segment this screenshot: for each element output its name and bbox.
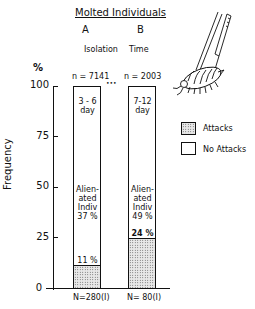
bar-b-duration: 7-12day (129, 97, 156, 115)
bar-a-attacks-label: 11 % (74, 256, 101, 265)
legend-no-attacks-label: No Attacks (203, 145, 246, 154)
isolation-label: Isolation (84, 45, 118, 54)
group-a-letter: A (82, 24, 89, 35)
bar-a-duration: 3 - 6day (74, 97, 101, 115)
ytick-75: 75 (19, 130, 49, 141)
ytick-0: 0 (12, 282, 42, 293)
insect-with-brush-icon (172, 8, 252, 98)
tick-100 (53, 86, 58, 87)
bar-b-N: N= 80(I) (127, 293, 161, 302)
tick-50 (53, 187, 58, 188)
bar-b-alienated: Alien-atedIndiv49 % (129, 185, 156, 221)
legend-attacks-label: Attacks (203, 124, 233, 133)
n-a: n = 7141 (72, 72, 109, 81)
bar-a-N: N=280(I) (73, 293, 110, 302)
bar-a-attacks (74, 265, 100, 288)
percent-unit: % (33, 62, 43, 73)
legend-attacks-swatch (181, 122, 196, 135)
n-b: n = 2003 (124, 72, 161, 81)
significance-dots: • • • (106, 79, 115, 86)
tick-25 (53, 237, 58, 238)
ytick-25: 25 (19, 231, 49, 242)
tick-75 (53, 136, 58, 137)
legend-no-attacks-swatch (181, 142, 196, 155)
bar-b-attacks (129, 238, 155, 288)
time-label: Time (129, 45, 149, 54)
chart-title: Molted Individuals (75, 7, 166, 18)
group-b-letter: B (137, 24, 144, 35)
bar-b-attacks-label: 24 % (129, 229, 156, 238)
ytick-50: 50 (19, 180, 49, 191)
y-axis-label: Frequency (2, 138, 13, 190)
ytick-100: 100 (19, 79, 49, 90)
bar-a-alienated: Alien-atedIndiv37 % (74, 185, 101, 221)
